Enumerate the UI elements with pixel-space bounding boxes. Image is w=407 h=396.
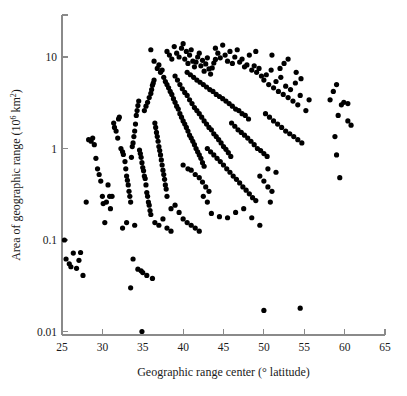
data-point — [246, 116, 251, 121]
data-point — [176, 106, 181, 111]
data-point — [132, 128, 137, 133]
data-point — [281, 92, 286, 97]
data-point — [153, 125, 158, 130]
data-point — [232, 54, 237, 59]
data-point — [331, 89, 336, 94]
data-point — [235, 47, 240, 52]
data-point — [62, 237, 67, 242]
data-point — [230, 61, 235, 66]
data-point — [269, 189, 274, 194]
data-point — [155, 134, 160, 139]
data-point — [286, 95, 291, 100]
data-point — [332, 134, 337, 139]
data-point — [218, 55, 223, 60]
data-point — [227, 49, 232, 54]
data-point — [290, 98, 295, 103]
data-point — [130, 140, 135, 145]
data-point — [151, 77, 156, 82]
data-point — [233, 210, 238, 215]
data-point — [145, 100, 150, 105]
data-point — [283, 84, 288, 89]
data-point — [128, 285, 133, 290]
data-point — [193, 59, 198, 64]
data-point — [185, 166, 190, 171]
data-point — [84, 199, 89, 204]
data-point — [122, 159, 127, 164]
data-point — [176, 210, 181, 215]
data-point — [288, 87, 293, 92]
data-point — [197, 175, 202, 180]
data-point — [123, 166, 128, 171]
data-point — [139, 155, 144, 160]
data-point — [132, 223, 137, 228]
data-point — [152, 120, 157, 125]
data-point — [197, 229, 202, 234]
data-point — [131, 134, 136, 139]
data-point — [307, 97, 312, 102]
data-point — [97, 172, 102, 177]
data-point — [327, 97, 332, 102]
data-point — [189, 47, 194, 52]
data-point — [213, 46, 218, 51]
data-point — [133, 121, 138, 126]
data-point — [169, 56, 174, 61]
data-point — [299, 140, 304, 145]
data-point — [279, 125, 284, 130]
data-point — [114, 128, 119, 133]
data-point — [298, 306, 303, 311]
data-point — [128, 199, 133, 204]
data-point — [269, 67, 274, 72]
data-point — [223, 52, 228, 57]
data-point — [252, 63, 257, 68]
data-point — [130, 256, 135, 261]
data-point — [265, 154, 270, 159]
data-point — [208, 72, 213, 77]
data-point — [244, 62, 249, 67]
data-points — [62, 41, 354, 334]
plot-canvas: 0.010.1110253035404550556065Geographic r… — [0, 0, 407, 396]
data-point — [261, 77, 266, 82]
scatter-plot-figure: 0.010.1110253035404550556065Geographic r… — [0, 0, 407, 396]
data-point — [266, 82, 271, 87]
data-point — [206, 189, 211, 194]
data-point — [257, 223, 262, 228]
data-point — [241, 206, 246, 211]
data-point — [135, 103, 140, 108]
data-point — [147, 203, 152, 208]
data-point — [202, 164, 207, 169]
data-point — [161, 172, 166, 177]
data-point — [144, 273, 149, 278]
data-point — [135, 267, 140, 272]
data-point — [261, 308, 266, 313]
data-point — [145, 194, 150, 199]
data-point — [139, 160, 144, 165]
data-point — [213, 57, 218, 62]
x-tick-label: 25 — [56, 341, 68, 353]
data-point — [200, 179, 205, 184]
data-point — [203, 184, 208, 189]
data-point — [209, 211, 214, 216]
data-point — [93, 156, 98, 161]
data-point — [294, 70, 299, 75]
data-point — [117, 115, 122, 120]
x-axis-title: Geographic range center (° latitude) — [137, 365, 310, 379]
data-point — [159, 157, 164, 162]
data-point — [76, 258, 81, 263]
data-point — [100, 194, 105, 199]
data-point — [157, 148, 162, 153]
data-point — [135, 108, 140, 113]
data-point — [124, 220, 129, 225]
data-point — [197, 51, 202, 56]
data-point — [264, 72, 269, 77]
data-point — [168, 206, 173, 211]
data-point — [253, 49, 258, 54]
data-point — [160, 162, 165, 167]
y-tick-label: 0.01 — [37, 326, 57, 338]
data-point — [156, 62, 161, 67]
data-point — [181, 216, 186, 221]
data-point — [126, 189, 131, 194]
data-point — [275, 121, 280, 126]
data-point — [160, 168, 165, 173]
data-point — [172, 203, 177, 208]
data-point — [162, 177, 167, 182]
